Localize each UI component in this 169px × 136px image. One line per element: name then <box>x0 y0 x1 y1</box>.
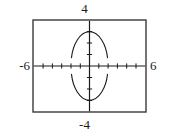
x-min-label: -6 <box>2 59 30 72</box>
y-max-label: 4 <box>0 2 169 15</box>
y-min-label: -4 <box>0 118 169 131</box>
x-max-label: 6 <box>150 59 168 72</box>
